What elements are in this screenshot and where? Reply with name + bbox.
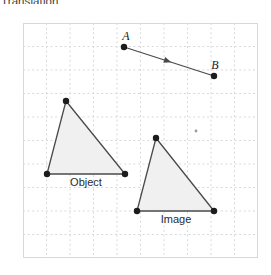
label-image: Image: [161, 213, 192, 225]
vertex-dot: [134, 208, 140, 214]
translation-vector-layer: [121, 44, 217, 79]
vertex-dot: [122, 171, 128, 177]
label-a: A: [121, 29, 130, 43]
diagram-svg: ABObjectImage: [0, 0, 271, 275]
vertex-dot: [211, 208, 217, 214]
diagram-stage: Translation ABObjectImage: [0, 0, 271, 275]
point-b-dot: [211, 73, 217, 79]
polygon-object: [47, 101, 125, 174]
label-b: B: [211, 58, 219, 72]
vertex-dot: [153, 135, 159, 141]
shape-layer: [44, 98, 217, 214]
label-object: Object: [70, 176, 102, 188]
stray-marks-layer: [195, 130, 198, 133]
diagram-canvas: ABObjectImage: [0, 0, 271, 275]
polygon-image: [137, 138, 214, 211]
point-a-dot: [121, 44, 127, 50]
vertex-dot: [63, 98, 69, 104]
vertex-dot: [44, 171, 50, 177]
stray-mark: [195, 130, 198, 133]
translation-vector-arrowhead: [163, 57, 171, 63]
